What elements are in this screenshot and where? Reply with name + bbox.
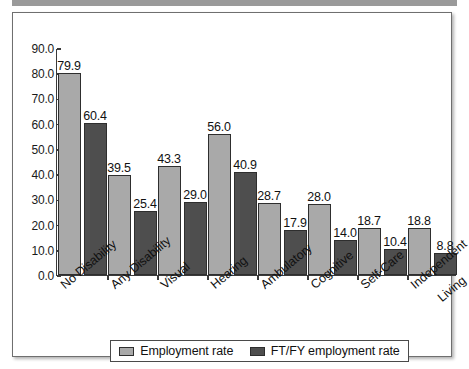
y-axis-tick: 20.0	[31, 219, 57, 233]
y-axis-tick-label: 0.0	[38, 269, 57, 283]
bars-layer: 79.960.439.525.443.329.056.040.928.717.9…	[57, 49, 456, 275]
bar-value-label: 25.4	[133, 197, 157, 211]
y-axis-tick: 40.0	[31, 168, 57, 182]
bar: 43.3	[158, 166, 181, 275]
y-axis-tick: 70.0	[31, 92, 57, 106]
bar-value-label: 79.9	[57, 59, 81, 73]
bar: 39.5	[108, 175, 131, 275]
bar-value-label: 60.4	[83, 109, 107, 123]
y-axis-tick: 90.0	[31, 42, 57, 56]
y-axis-tick-label: 70.0	[31, 92, 57, 106]
bar: 79.9	[58, 73, 81, 275]
y-axis-tick-label: 60.0	[31, 118, 57, 132]
y-axis-tick: 50.0	[31, 143, 57, 157]
plot-area: 90.080.070.060.050.040.030.020.010.00.0 …	[56, 49, 456, 276]
bar: 56.0	[208, 134, 231, 275]
legend-label-ftfy-employment-rate: FT/FY employment rate	[271, 344, 400, 358]
bar-value-label: 29.0	[183, 188, 207, 202]
bar-value-label: 28.7	[257, 189, 281, 203]
x-axis-category-label: Living	[435, 273, 469, 304]
bar-value-label: 40.9	[233, 158, 257, 172]
y-axis-tick-label: 30.0	[31, 193, 57, 207]
bar-group: 39.525.4	[108, 49, 157, 275]
bar-group: 56.040.9	[208, 49, 257, 275]
bar-value-label: 39.5	[107, 161, 131, 175]
bar-value-label: 18.7	[357, 214, 381, 228]
legend-label-employment-rate: Employment rate	[140, 344, 233, 358]
bar-group: 79.960.4	[58, 49, 107, 275]
legend-swatch-ftfy-employment-rate	[250, 347, 265, 356]
bar-group: 18.710.4	[358, 49, 407, 275]
bar-value-label: 28.0	[307, 190, 331, 204]
y-axis-tick-label: 10.0	[31, 244, 57, 258]
y-axis-tick: 30.0	[31, 193, 57, 207]
bar-group: 28.014.0	[308, 49, 357, 275]
bar-group: 28.717.9	[258, 49, 307, 275]
y-axis-tick-label: 50.0	[31, 143, 57, 157]
legend-item-ftfy-employment-rate: FT/FY employment rate	[250, 344, 400, 358]
y-axis-tick-label: 80.0	[31, 67, 57, 81]
y-axis-tick: 10.0	[31, 244, 57, 258]
y-axis-tick-label: 20.0	[31, 219, 57, 233]
bar-value-label: 18.8	[407, 214, 431, 228]
y-axis-tick: 60.0	[31, 118, 57, 132]
bar-group: 18.88.8	[408, 49, 457, 275]
legend-item-employment-rate: Employment rate	[119, 344, 233, 358]
y-axis-tick: 80.0	[31, 67, 57, 81]
y-axis-tick: 0.0	[38, 269, 57, 283]
bar-value-label: 43.3	[157, 152, 181, 166]
chart-legend: Employment rate FT/FY employment rate	[110, 340, 409, 362]
y-axis-tick-mark	[57, 275, 61, 277]
legend-swatch-employment-rate	[119, 347, 134, 356]
category-axis-labels: No DisabilityAny DisabilityVisualHearing…	[56, 281, 466, 343]
bar-value-label: 10.4	[383, 235, 407, 249]
bar-value-label: 14.0	[333, 226, 357, 240]
y-axis-tick-label: 40.0	[31, 168, 57, 182]
bar-value-label: 56.0	[207, 120, 231, 134]
bar-value-label: 17.9	[283, 216, 307, 230]
y-axis-tick-label: 90.0	[31, 42, 57, 56]
chart-figure: 90.080.070.060.050.040.030.020.010.00.0 …	[12, 12, 452, 357]
page-top-band	[12, 0, 457, 6]
